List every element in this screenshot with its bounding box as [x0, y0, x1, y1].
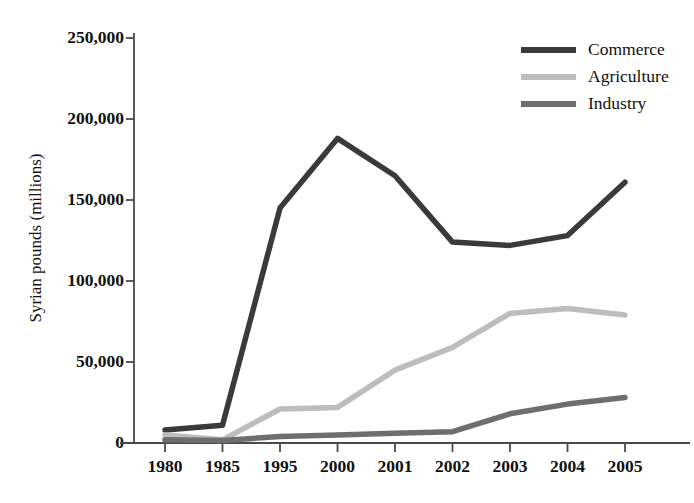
legend-item-industry: Industry — [521, 90, 693, 117]
line-chart: Syrian pounds (millions) 050,000100,0001… — [0, 0, 694, 503]
legend-label: Commerce — [588, 41, 665, 59]
legend-swatch-icon — [521, 74, 576, 80]
legend-item-commerce: Commerce — [521, 36, 693, 63]
legend-label: Agriculture — [588, 68, 669, 86]
chart-legend: CommerceAgricultureIndustry — [521, 36, 693, 117]
legend-label: Industry — [588, 95, 646, 113]
series-line-commerce — [165, 138, 625, 430]
legend-swatch-icon — [521, 101, 576, 107]
legend-item-agriculture: Agriculture — [521, 63, 693, 90]
legend-swatch-icon — [521, 47, 576, 53]
data-series-group — [165, 138, 625, 440]
